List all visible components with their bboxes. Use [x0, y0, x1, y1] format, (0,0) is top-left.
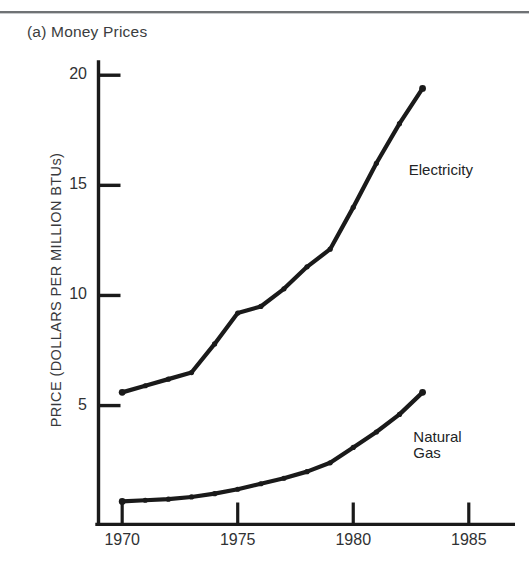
header-divider [0, 11, 529, 13]
data-point-marker [397, 121, 402, 126]
series-line [122, 392, 422, 501]
data-point-marker [212, 341, 217, 346]
data-point-marker [374, 429, 379, 434]
data-point-marker [258, 304, 263, 309]
data-point-marker [143, 383, 148, 388]
data-point-marker [235, 310, 240, 315]
data-point-marker [143, 498, 148, 503]
data-point-marker [119, 389, 126, 396]
data-point-marker [166, 377, 171, 382]
data-point-marker [419, 389, 426, 396]
data-point-marker [328, 460, 333, 465]
data-point-marker [328, 247, 333, 252]
x-tick-label: 1985 [439, 531, 499, 549]
data-series-group [122, 88, 422, 501]
data-point-marker [374, 161, 379, 166]
data-point-marker [212, 491, 217, 496]
figure-page: (a) Money Prices PRICE (DOLLARS PER MILL… [0, 0, 529, 583]
x-tick-label: 1980 [323, 531, 383, 549]
series-label-electricity: Electricity [409, 162, 473, 178]
data-point-marker [351, 205, 356, 210]
y-tick-label: 15 [49, 175, 87, 193]
y-tick-label: 20 [49, 65, 87, 83]
data-point-marker [235, 487, 240, 492]
series-line [122, 88, 422, 392]
data-point-marker [419, 85, 426, 92]
y-tick-label: 10 [49, 285, 87, 303]
series-label-natural-gas: Natural Gas [413, 429, 461, 461]
x-tick-label: 1975 [208, 531, 268, 549]
data-point-marker [258, 481, 263, 486]
data-point-marker [281, 286, 286, 291]
data-point-marker [189, 370, 194, 375]
data-point-markers [119, 85, 426, 505]
x-tick-marks [122, 503, 469, 525]
data-point-marker [397, 412, 402, 417]
data-point-marker [351, 445, 356, 450]
page-title: (a) Money Prices [27, 23, 147, 41]
y-tick-marks [99, 75, 121, 405]
plot-area: 5101520 1970197519801985 ElectricityNatu… [95, 60, 515, 526]
data-point-marker [189, 494, 194, 499]
data-point-marker [166, 497, 171, 502]
data-point-marker [281, 476, 286, 481]
y-tick-label: 5 [49, 396, 87, 414]
data-point-marker [119, 498, 126, 505]
data-point-marker [304, 264, 309, 269]
x-tick-label: 1970 [92, 531, 152, 549]
data-point-marker [304, 469, 309, 474]
